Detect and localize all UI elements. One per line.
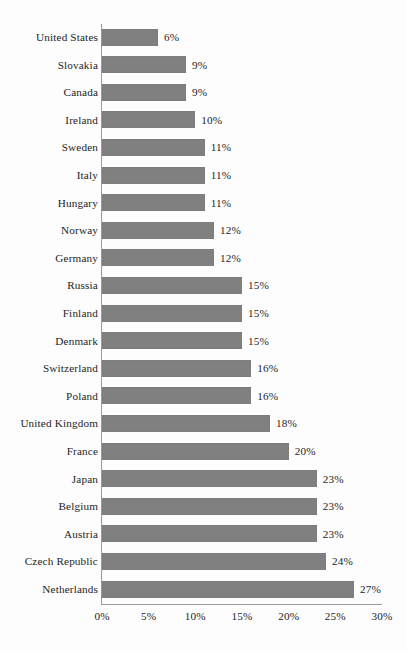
category-label: France (67, 438, 98, 464)
bar (102, 470, 317, 487)
category-label: Canada (64, 79, 98, 105)
category-label: Ireland (65, 107, 98, 133)
bar-value-label: 11% (211, 190, 232, 216)
bar-fill (102, 581, 354, 598)
bar-fill (102, 139, 205, 156)
bar-row: France20% (0, 438, 406, 464)
category-label: Poland (66, 383, 98, 409)
category-label: Denmark (55, 328, 98, 354)
x-tick-label: 30% (372, 610, 393, 622)
bar-row: Sweden11% (0, 134, 406, 160)
bar (102, 56, 186, 73)
bar-fill (102, 167, 205, 184)
bar (102, 249, 214, 266)
bar-row: Slovakia9% (0, 52, 406, 78)
category-label: United States (36, 24, 98, 50)
category-label: Finland (63, 300, 98, 326)
bar-value-label: 16% (257, 355, 278, 381)
bar-fill (102, 498, 317, 515)
bar (102, 139, 205, 156)
bar-value-label: 15% (248, 328, 269, 354)
y-axis-line (101, 24, 102, 605)
bar (102, 415, 270, 432)
bar-row: Japan23% (0, 466, 406, 492)
x-tick-label: 5% (141, 610, 156, 622)
category-label: Germany (55, 245, 98, 271)
category-label: Belgium (58, 493, 98, 519)
category-label: Norway (61, 217, 98, 243)
bar-fill (102, 415, 270, 432)
bar-fill (102, 111, 195, 128)
bar-value-label: 11% (211, 162, 232, 188)
bar-value-label: 23% (323, 493, 344, 519)
bar-fill (102, 249, 214, 266)
bar-value-label: 27% (360, 576, 381, 602)
x-tick-label: 20% (278, 610, 299, 622)
bar-fill (102, 470, 317, 487)
bar-value-label: 6% (164, 24, 179, 50)
bar-fill (102, 305, 242, 322)
category-label: Switzerland (43, 355, 98, 381)
bar-row: Belgium23% (0, 493, 406, 519)
bar-value-label: 15% (248, 272, 269, 298)
bar-row: United States6% (0, 24, 406, 50)
bar (102, 387, 251, 404)
bar (102, 553, 326, 570)
x-tick-label: 15% (232, 610, 253, 622)
bar-value-label: 24% (332, 548, 353, 574)
bar (102, 305, 242, 322)
bar-row: Austria23% (0, 521, 406, 547)
bar-value-label: 12% (220, 217, 241, 243)
bar (102, 167, 205, 184)
bar-fill (102, 84, 186, 101)
bar (102, 581, 354, 598)
bar (102, 111, 195, 128)
bar-fill (102, 443, 289, 460)
bar-value-label: 11% (211, 134, 232, 160)
bar (102, 222, 214, 239)
category-label: Italy (77, 162, 98, 188)
bar-value-label: 23% (323, 466, 344, 492)
bar-row: Italy11% (0, 162, 406, 188)
bar-fill (102, 525, 317, 542)
bar (102, 443, 289, 460)
x-tick-label: 25% (325, 610, 346, 622)
bar-value-label: 20% (295, 438, 316, 464)
bar-value-label: 16% (257, 383, 278, 409)
bar-row: Switzerland16% (0, 355, 406, 381)
bar-fill (102, 553, 326, 570)
bar-row: Netherlands27% (0, 576, 406, 602)
bar-row: Norway12% (0, 217, 406, 243)
bar-row: Germany12% (0, 245, 406, 271)
category-label: Slovakia (58, 52, 98, 78)
category-label: Czech Republic (25, 548, 98, 574)
bar (102, 360, 251, 377)
x-tick-label: 10% (185, 610, 206, 622)
bar-row: United Kingdom18% (0, 410, 406, 436)
bar-value-label: 12% (220, 245, 241, 271)
x-axis-line (101, 604, 382, 605)
bar-value-label: 18% (276, 410, 297, 436)
bar-row: Poland16% (0, 383, 406, 409)
x-tick-label: 0% (94, 610, 109, 622)
bar (102, 332, 242, 349)
category-label: Japan (72, 466, 98, 492)
bar (102, 525, 317, 542)
category-label: Hungary (58, 190, 98, 216)
bar-fill (102, 194, 205, 211)
bar-row: Canada9% (0, 79, 406, 105)
bar-fill (102, 387, 251, 404)
bar (102, 84, 186, 101)
category-label: Austria (64, 521, 98, 547)
bar-row: Denmark15% (0, 328, 406, 354)
plot-area: United States6%Slovakia9%Canada9%Ireland… (0, 0, 406, 651)
bar-fill (102, 277, 242, 294)
bar-value-label: 9% (192, 79, 207, 105)
category-label: Netherlands (42, 576, 98, 602)
bar-fill (102, 56, 186, 73)
bar (102, 498, 317, 515)
bar-value-label: 10% (201, 107, 222, 133)
bar-row: Hungary11% (0, 190, 406, 216)
bar (102, 194, 205, 211)
bar-chart: United States6%Slovakia9%Canada9%Ireland… (0, 0, 406, 651)
